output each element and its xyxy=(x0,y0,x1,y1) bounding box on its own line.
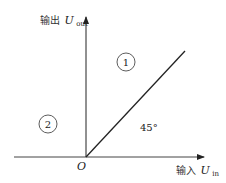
x-axis-label: 输入 U in xyxy=(176,164,220,178)
svg-text:2: 2 xyxy=(45,119,51,130)
diagonal-45-line xyxy=(86,51,185,157)
region-1-marker: 1 xyxy=(117,53,135,71)
svg-text:1: 1 xyxy=(123,57,129,68)
angle-label: 45° xyxy=(140,122,158,133)
diagram-canvas: 输出 U out 输入 U in O 1 2 45° xyxy=(0,0,226,183)
y-axis-label: 输出 U out xyxy=(40,14,88,28)
origin-label: O xyxy=(77,160,86,173)
region-2-marker: 2 xyxy=(39,115,57,133)
